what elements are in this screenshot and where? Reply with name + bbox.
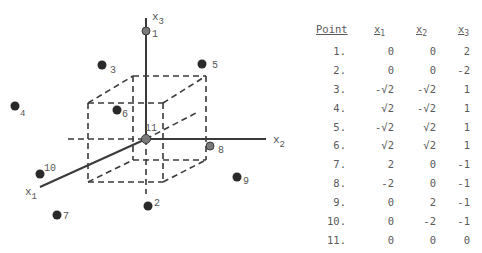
table-row: 9.02-1: [306, 193, 482, 212]
point-11: 11: [142, 123, 158, 144]
svg-text:10: 10: [44, 163, 56, 174]
point-4: 4: [11, 102, 26, 120]
coordinates-table: Point x1 x2 x3 1.002 2.00-2 3.-√2-√21 4.…: [306, 20, 482, 250]
table-row: 4.√2-√21: [306, 99, 482, 118]
table-row: 7.20-1: [306, 155, 482, 174]
point-8: 8: [206, 142, 224, 156]
svg-text:6: 6: [122, 109, 128, 120]
svg-text:2: 2: [154, 198, 160, 209]
svg-text:3: 3: [110, 65, 116, 76]
svg-text:11: 11: [145, 123, 157, 134]
table-row: 6.√2√21: [306, 136, 482, 155]
svg-text:8: 8: [218, 145, 224, 156]
header-point: Point: [316, 20, 348, 38]
x2-axis-label: x2: [273, 134, 285, 150]
table-row: 10.0-2-1: [306, 212, 482, 231]
table-row: 8.-20-1: [306, 174, 482, 193]
3d-point-diagram: x3 x2 x1 1 2 3 4 5 6 7 8 9 10: [0, 0, 300, 253]
point-2: 2: [144, 198, 161, 211]
header-x3: x3: [458, 20, 469, 43]
svg-text:9: 9: [243, 176, 249, 187]
point-6: 6: [113, 106, 129, 121]
table-row: 5.-√2√21: [306, 118, 482, 137]
svg-text:1: 1: [152, 29, 158, 40]
point-9: 9: [233, 173, 250, 188]
table-row: 11.000: [306, 231, 482, 250]
table-row: 2.00-2: [306, 61, 482, 80]
header-x1: x1: [374, 20, 385, 43]
point-5: 5: [198, 60, 219, 72]
header-x2: x2: [416, 20, 427, 43]
point-3: 3: [98, 61, 117, 77]
cube: [68, 76, 206, 194]
table-row: 3.-√2-√21: [306, 80, 482, 99]
svg-text:5: 5: [212, 60, 218, 71]
table-header: Point x1 x2 x3: [306, 20, 482, 42]
table-row: 1.002: [306, 42, 482, 61]
point-1: 1: [142, 27, 158, 40]
point-10: 10: [36, 163, 57, 179]
svg-text:4: 4: [20, 109, 25, 119]
x1-axis-label: x1: [25, 186, 37, 202]
svg-text:7: 7: [63, 211, 69, 222]
x3-axis-label: x3: [152, 11, 164, 27]
point-7: 7: [53, 211, 70, 223]
